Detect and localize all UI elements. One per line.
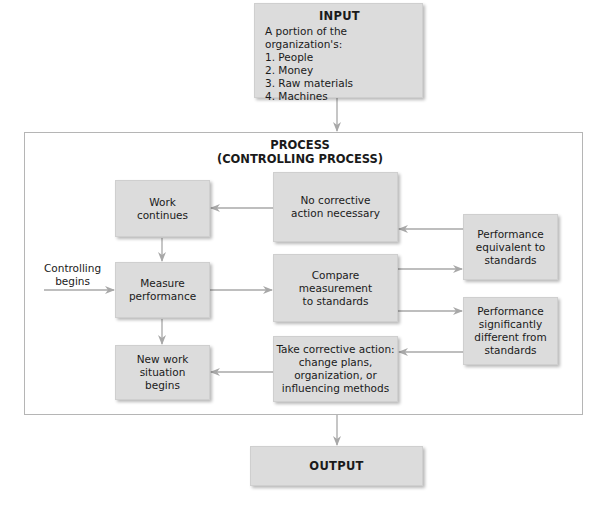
label-line: Controlling xyxy=(44,262,101,275)
box-text: begins xyxy=(145,379,180,392)
box-text: standards xyxy=(484,254,536,267)
box-text: Performance xyxy=(477,228,544,241)
output-title: OUTPUT xyxy=(309,460,363,473)
box-text: action necessary xyxy=(291,207,380,220)
box-text: Work xyxy=(149,196,176,209)
label-line: begins xyxy=(44,275,101,288)
box-text: significantly xyxy=(479,318,542,331)
box-text: change plans, xyxy=(299,356,372,369)
box-text: Compare xyxy=(312,269,360,282)
input-intro: A portion of the organization's: xyxy=(265,25,414,51)
box-text: standards xyxy=(484,344,536,357)
box-text: Performance xyxy=(477,305,544,318)
box-text: Take corrective action: xyxy=(276,343,394,356)
box-text: New work xyxy=(137,353,189,366)
input-title: INPUT xyxy=(319,10,360,23)
box-text: No corrective xyxy=(301,194,371,207)
input-item: 4. Machines xyxy=(265,90,328,103)
box-text: continues xyxy=(137,209,188,222)
input-item: 2. Money xyxy=(265,64,313,77)
box-text: organization, or xyxy=(294,369,377,382)
box-text: Measure xyxy=(140,277,185,290)
output-box: OUTPUT xyxy=(250,446,423,486)
box-text: influencing methods xyxy=(282,382,389,395)
work-continues-box: Work continues xyxy=(115,180,210,237)
input-box: INPUT A portion of the organization's: 1… xyxy=(254,3,423,98)
box-text: to standards xyxy=(303,295,369,308)
input-item: 3. Raw materials xyxy=(265,77,353,90)
new-work-situation-box: New work situation begins xyxy=(115,345,210,400)
process-title: PROCESS (CONTROLLING PROCESS) xyxy=(190,138,410,166)
box-text: performance xyxy=(129,290,196,303)
box-text: situation xyxy=(140,366,186,379)
no-corrective-action-box: No corrective action necessary xyxy=(273,172,398,242)
take-corrective-action-box: Take corrective action: change plans, or… xyxy=(273,336,398,402)
performance-equivalent-box: Performance equivalent to standards xyxy=(463,214,558,280)
compare-box: Compare measurement to standards xyxy=(273,254,398,322)
input-item: 1. People xyxy=(265,51,313,64)
process-title-line1: PROCESS xyxy=(190,138,410,152)
box-text: equivalent to xyxy=(476,241,545,254)
box-text: measurement xyxy=(299,282,372,295)
measure-performance-box: Measure performance xyxy=(115,262,210,318)
performance-different-box: Performance significantly different from… xyxy=(463,297,558,365)
box-text: different from xyxy=(474,331,546,344)
process-title-line2: (CONTROLLING PROCESS) xyxy=(190,152,410,166)
controlling-begins-label: Controlling begins xyxy=(44,262,101,288)
